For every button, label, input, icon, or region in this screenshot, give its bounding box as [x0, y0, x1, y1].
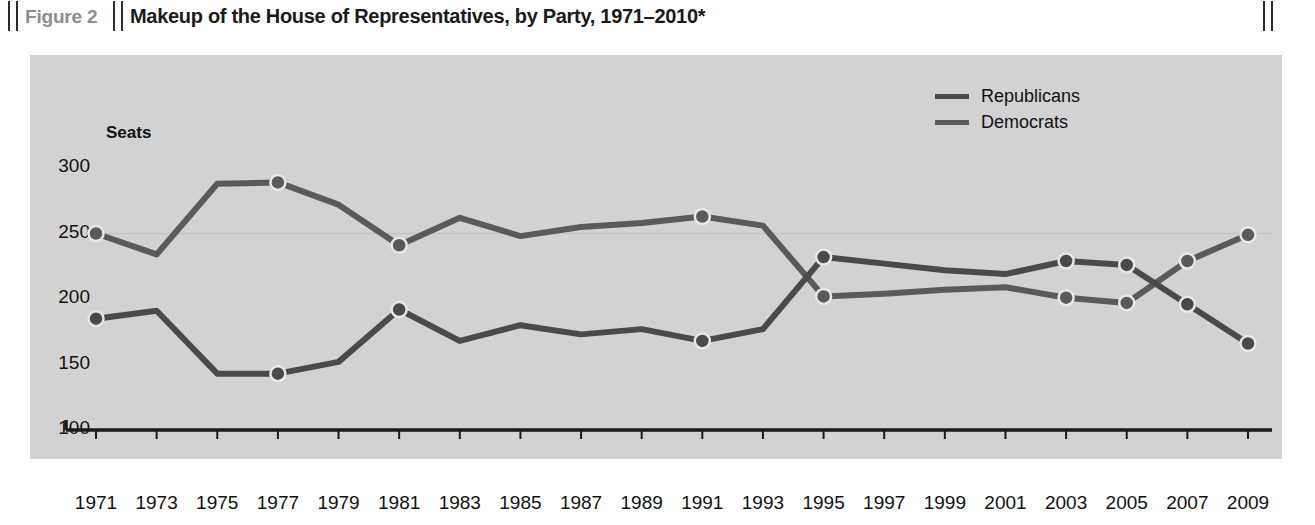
header-rule-right	[1263, 1, 1273, 31]
x-tick-1991: 1991	[681, 492, 723, 514]
figure-label: Figure 2	[25, 6, 97, 28]
x-tick-1987: 1987	[560, 492, 602, 514]
legend-label-democrats: Democrats	[981, 111, 1068, 133]
x-tick-1995: 1995	[802, 492, 844, 514]
x-tick-1985: 1985	[499, 492, 541, 514]
chart-panel: Seats 100150200250300 197119731975197719…	[30, 55, 1282, 459]
x-tick-2005: 2005	[1106, 492, 1148, 514]
figure-header: Figure 2 Makeup of the House of Represen…	[0, 0, 1315, 34]
legend-swatch-republicans	[935, 94, 969, 99]
figure-container: Figure 2 Makeup of the House of Represen…	[0, 0, 1315, 525]
x-tick-1973: 1973	[135, 492, 177, 514]
line-chart-svg	[30, 55, 1282, 459]
legend-item-democrats: Democrats	[935, 111, 1080, 133]
header-rule-middle	[113, 1, 123, 31]
header-rule-left	[8, 1, 18, 31]
legend-swatch-democrats	[935, 120, 969, 125]
figure-title: Makeup of the House of Representatives, …	[130, 5, 705, 28]
chart-plot-area: Seats 100150200250300 197119731975197719…	[30, 55, 1282, 459]
x-tick-1971: 1971	[75, 492, 117, 514]
x-tick-2003: 2003	[1045, 492, 1087, 514]
x-tick-1983: 1983	[439, 492, 481, 514]
x-tick-1993: 1993	[742, 492, 784, 514]
x-tick-2007: 2007	[1166, 492, 1208, 514]
legend-item-republicans: Republicans	[935, 85, 1080, 107]
x-tick-2009: 2009	[1227, 492, 1269, 514]
x-tick-1975: 1975	[196, 492, 238, 514]
legend-label-republicans: Republicans	[981, 85, 1080, 107]
x-tick-1999: 1999	[924, 492, 966, 514]
x-tick-1989: 1989	[621, 492, 663, 514]
x-tick-1977: 1977	[257, 492, 299, 514]
x-tick-1981: 1981	[378, 492, 420, 514]
x-tick-1997: 1997	[863, 492, 905, 514]
chart-legend: Republicans Democrats	[935, 85, 1080, 137]
x-tick-2001: 2001	[984, 492, 1026, 514]
x-tick-1979: 1979	[317, 492, 359, 514]
